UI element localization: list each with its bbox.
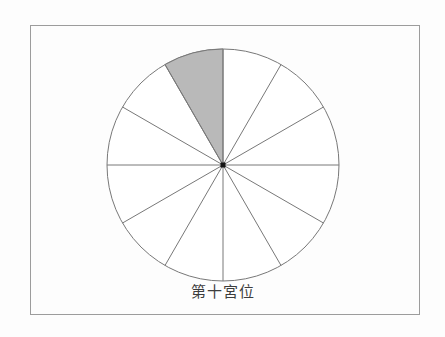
house-label: 第十宮位 xyxy=(103,283,343,301)
wheel-center-dot xyxy=(221,163,226,168)
page: 第十宮位 xyxy=(0,0,445,337)
